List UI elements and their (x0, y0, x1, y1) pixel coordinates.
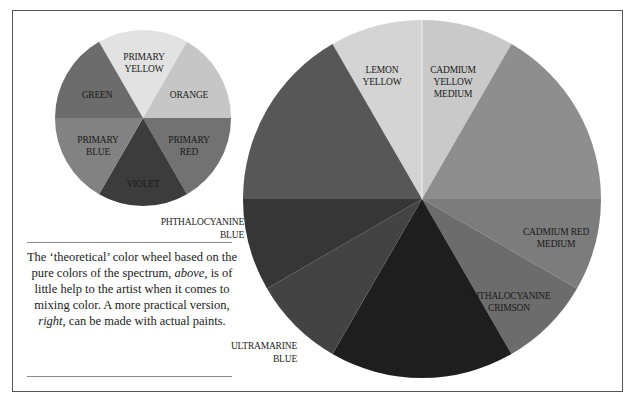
label-lemon-yellow-2: YELLOW (363, 77, 402, 87)
theoretical-color-wheel: PRIMARY YELLOW ORANGE PRIMARY RED VIOLET… (55, 30, 231, 206)
label-cadmium-red-medium-2: MEDIUM (537, 239, 576, 249)
label-primary-yellow-1: PRIMARY (123, 52, 165, 62)
label-primary-blue-1: PRIMARY (77, 135, 119, 145)
caption-bottom-rule (27, 376, 232, 377)
caption-emphasis-right: right (38, 314, 62, 328)
label-cadmium-red-medium-1: CADMIUM RED (523, 227, 589, 237)
label-phthalocyanine-blue-line1: PHTHALOCYANINE (161, 216, 244, 229)
label-phthalocyanine-crimson-2: CRIMSON (488, 303, 530, 313)
label-cadmium-yellow-medium-2: YELLOW (434, 77, 473, 87)
practical-color-wheel: LEMON YELLOW CADMIUM YELLOW MEDIUM CADMI… (243, 20, 601, 378)
label-primary-red-1: PRIMARY (168, 135, 210, 145)
label-cadmium-yellow-medium-1: CADMIUM (430, 65, 476, 75)
label-primary-blue-2: BLUE (86, 147, 110, 157)
label-phthalocyanine-blue: PHTHALOCYANINE BLUE (161, 216, 244, 242)
label-phthalocyanine-blue-line2: BLUE (161, 229, 244, 242)
label-ultramarine-blue: ULTRAMARINE BLUE (231, 340, 297, 366)
label-cadmium-yellow-medium-3: MEDIUM (434, 89, 473, 99)
label-lemon-yellow-1: LEMON (366, 65, 399, 75)
label-ultramarine-blue-line1: ULTRAMARINE (231, 340, 297, 353)
caption-emphasis-above: above (175, 266, 205, 280)
label-phthalocyanine-crimson-1: PHTHALOCYANINE (467, 291, 551, 301)
label-violet: VIOLET (126, 179, 159, 189)
label-primary-red-2: RED (180, 147, 199, 157)
label-ultramarine-blue-line2: BLUE (231, 353, 297, 366)
label-orange: ORANGE (170, 90, 209, 100)
caption-top-rule (27, 242, 232, 243)
label-green: GREEN (82, 90, 113, 100)
label-primary-yellow-2: YELLOW (125, 64, 164, 74)
caption-part3: , can be made with actual paints. (63, 314, 226, 328)
caption-text: The ‘theoretical’ color wheel based on t… (22, 249, 242, 329)
